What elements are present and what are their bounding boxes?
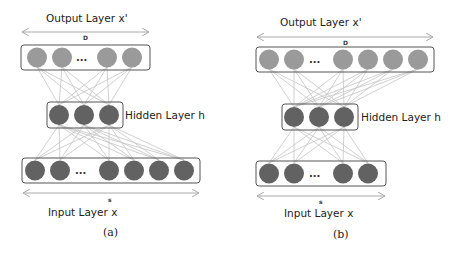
hidden-node bbox=[284, 107, 304, 127]
hidden-layer-b bbox=[282, 104, 358, 130]
output-node bbox=[333, 50, 353, 70]
output-node bbox=[408, 50, 428, 70]
input-node bbox=[124, 161, 144, 181]
autoencoder-diagram-b: Output Layer x' D ... Hidden Layer h ... bbox=[256, 16, 441, 241]
output-node bbox=[122, 48, 142, 68]
input-dimension-label-a: s bbox=[108, 196, 112, 203]
input-node bbox=[284, 164, 304, 184]
input-layer-label-b: Input Layer x bbox=[284, 207, 353, 219]
ellipsis-output-a: ... bbox=[76, 52, 87, 63]
output-node bbox=[52, 48, 72, 68]
ellipsis-input-a: ... bbox=[75, 165, 86, 176]
edges-input-to-hidden-b bbox=[269, 127, 368, 163]
output-layer-a: ... bbox=[21, 45, 150, 70]
input-layer-b: ... bbox=[256, 161, 386, 186]
input-node bbox=[25, 161, 45, 181]
hidden-layer-label-a: Hidden Layer h bbox=[125, 109, 205, 121]
output-dimension-label-a: D bbox=[83, 34, 88, 41]
ellipsis-input-b: ... bbox=[309, 168, 320, 179]
output-layer-b: ... bbox=[256, 47, 434, 72]
output-node bbox=[259, 50, 279, 70]
input-node bbox=[333, 164, 353, 184]
hidden-layer-a bbox=[47, 102, 123, 128]
input-layer-a: ... bbox=[22, 158, 200, 183]
output-dimension-label-b: D bbox=[343, 39, 348, 46]
autoencoder-diagram-a: Output Layer x' D ... Hidden Layer h ... bbox=[21, 12, 205, 239]
input-node bbox=[259, 164, 279, 184]
output-node bbox=[97, 48, 117, 68]
caption-a: (a) bbox=[103, 226, 118, 239]
output-node bbox=[358, 50, 378, 70]
output-node bbox=[383, 50, 403, 70]
edges-input-to-hidden-a bbox=[35, 125, 184, 160]
hidden-node bbox=[99, 105, 119, 125]
edges-hidden-to-output-b bbox=[269, 69, 418, 107]
output-layer-label-a: Output Layer x' bbox=[46, 12, 128, 24]
input-node bbox=[174, 161, 194, 181]
input-node bbox=[358, 164, 378, 184]
hidden-node bbox=[74, 105, 94, 125]
caption-b: (b) bbox=[333, 228, 349, 241]
input-node bbox=[149, 161, 169, 181]
output-node bbox=[27, 48, 47, 68]
hidden-node bbox=[49, 105, 69, 125]
input-layer-label-a: Input Layer x bbox=[48, 206, 117, 218]
hidden-node bbox=[334, 107, 354, 127]
edges-hidden-to-output-a bbox=[37, 67, 132, 105]
output-layer-label-b: Output Layer x' bbox=[280, 16, 362, 28]
input-node bbox=[99, 161, 119, 181]
hidden-node bbox=[309, 107, 329, 127]
input-dimension-label-b: s bbox=[319, 198, 323, 205]
ellipsis-output-b: ... bbox=[309, 54, 320, 65]
input-node bbox=[50, 161, 70, 181]
hidden-layer-label-b: Hidden Layer h bbox=[361, 111, 441, 123]
output-node bbox=[284, 50, 304, 70]
